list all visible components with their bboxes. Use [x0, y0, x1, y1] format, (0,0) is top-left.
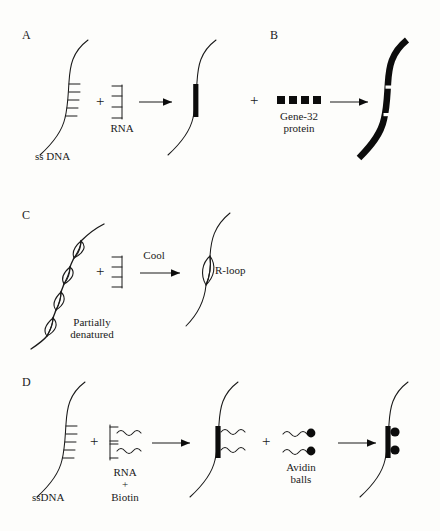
avidin-ball-bound-1 [390, 427, 399, 436]
figure-canvas: A + RNA ss DNA B [0, 0, 440, 531]
plus-sign-d2: + [262, 434, 270, 449]
biotinylated-rna-symbol [110, 425, 141, 460]
avidin-balls-symbol [283, 429, 315, 456]
avidin-balls-label: Avidin balls [275, 461, 327, 486]
reaction-arrow-d1 [152, 439, 190, 447]
hybrid-duplex-bar-d2 [385, 426, 390, 458]
biotin-tails-d [221, 430, 245, 453]
rna-biotin-label: RNA + Biotin [97, 466, 153, 503]
ssdna-label-d: ssDNA [32, 491, 88, 503]
reaction-arrow-d2 [338, 439, 376, 447]
hybrid-strand-d [190, 382, 238, 497]
avidin-ball-bound-2 [390, 445, 399, 454]
plus-sign-d1: + [90, 434, 98, 449]
ssdna-strand-d [37, 382, 85, 497]
panel-d-graphics [0, 0, 440, 531]
hybrid-duplex-bar-d [215, 426, 220, 458]
